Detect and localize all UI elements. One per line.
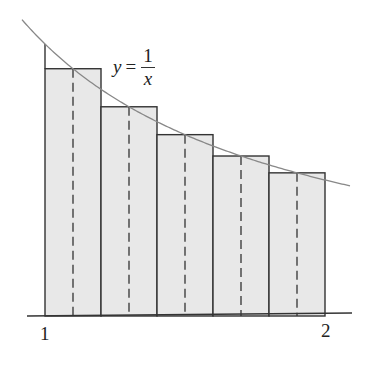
- equation-denominator: x: [144, 68, 152, 88]
- equation-label: y = 1 x: [113, 46, 155, 88]
- midpoint-rule-diagram: [0, 0, 373, 366]
- rectangle-4: [213, 156, 269, 316]
- x-tick-label-1: 1: [40, 323, 50, 345]
- equation-numerator: 1: [141, 46, 155, 68]
- equation-fraction: 1 x: [141, 46, 155, 88]
- midpoint-rectangles: [45, 44, 325, 316]
- equation-lhs: y: [113, 56, 121, 78]
- x-tick-label-2: 2: [321, 320, 331, 342]
- equation-equals: =: [125, 56, 136, 78]
